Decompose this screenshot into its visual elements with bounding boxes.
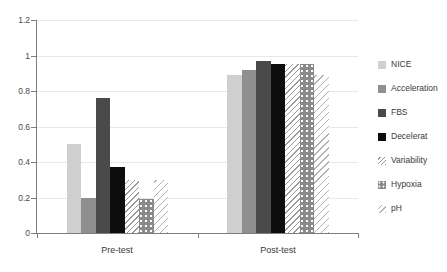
y-axis-tick <box>31 127 36 128</box>
bar-chart: 00.20.40.60.811.2 Pre-testPost-test NICE… <box>0 0 447 272</box>
x-axis-label-post-test: Post-test <box>238 245 318 255</box>
legend-item-label: Hypoxia <box>391 180 422 189</box>
y-axis-tick-label: 0.4 <box>0 158 30 167</box>
legend-item-label: FBS <box>391 108 408 117</box>
y-axis-tick <box>31 91 36 92</box>
y-axis-tick <box>31 56 36 57</box>
bar-ph-pre-test <box>154 180 169 233</box>
bar-nice-pre-test <box>67 144 82 233</box>
legend-swatch-icon <box>378 205 386 213</box>
legend-item-hypoxia[interactable]: Hypoxia <box>378 180 447 189</box>
bar-hypoxia-post-test <box>300 64 315 233</box>
legend-item-acceleration[interactable]: Acceleration <box>378 84 447 93</box>
legend-item-label: Variability <box>391 156 427 165</box>
bar-decelerat-post-test <box>271 64 286 233</box>
y-axis-tick <box>31 198 36 199</box>
legend-item-label: pH <box>391 204 402 213</box>
legend-item-ph[interactable]: pH <box>378 204 447 213</box>
legend-swatch-icon <box>378 133 386 141</box>
bar-decelerat-pre-test <box>110 167 125 233</box>
legend-swatch-icon <box>378 85 386 93</box>
y-axis-tick-label: 1.2 <box>0 16 30 25</box>
bar-acceleration-post-test <box>242 70 257 233</box>
x-axis-label-pre-test: Pre-test <box>77 245 157 255</box>
bar-hypoxia-pre-test <box>139 199 154 233</box>
x-axis-tick <box>358 233 359 238</box>
bar-variability-pre-test <box>125 180 140 233</box>
legend-swatch-icon <box>378 157 386 165</box>
legend-item-variability[interactable]: Variability <box>378 156 447 165</box>
y-axis-labels: 00.20.40.60.811.2 <box>0 0 30 272</box>
legend-item-nice[interactable]: NICE <box>378 60 447 69</box>
y-axis-tick-label: 0.6 <box>0 123 30 132</box>
bar-fbs-post-test <box>256 61 271 233</box>
legend-item-decelerat[interactable]: Decelerat <box>378 132 447 141</box>
y-axis-tick-label: 0.8 <box>0 87 30 96</box>
bar-nice-post-test <box>227 75 242 233</box>
plot-area <box>37 20 358 233</box>
x-axis-tick <box>37 233 38 238</box>
y-axis-tick <box>31 20 36 21</box>
y-axis-tick <box>31 162 36 163</box>
legend-item-label: Acceleration <box>391 84 438 93</box>
legend-swatch-icon <box>378 181 386 189</box>
legend-item-fbs[interactable]: FBS <box>378 108 447 117</box>
y-axis-tick-label: 1 <box>0 52 30 61</box>
bar-acceleration-pre-test <box>81 198 96 234</box>
legend-item-label: Decelerat <box>391 132 427 141</box>
bar-fbs-pre-test <box>96 98 111 233</box>
legend-swatch-icon <box>378 61 386 69</box>
x-axis-tick <box>198 233 199 238</box>
y-axis-tick-label: 0.2 <box>0 194 30 203</box>
legend-swatch-icon <box>378 109 386 117</box>
legend-item-label: NICE <box>391 60 411 69</box>
bar-variability-post-test <box>285 64 300 233</box>
y-axis-tick-label: 0 <box>0 229 30 238</box>
chart-legend: NICEAccelerationFBSDeceleratVariabilityH… <box>378 60 447 228</box>
bar-ph-post-test <box>314 75 329 233</box>
